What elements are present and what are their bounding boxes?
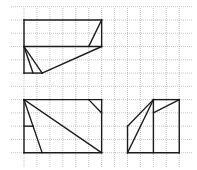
top-figure bbox=[24, 20, 102, 73]
figure-segment bbox=[89, 100, 102, 113]
grid-diagram bbox=[0, 0, 197, 170]
